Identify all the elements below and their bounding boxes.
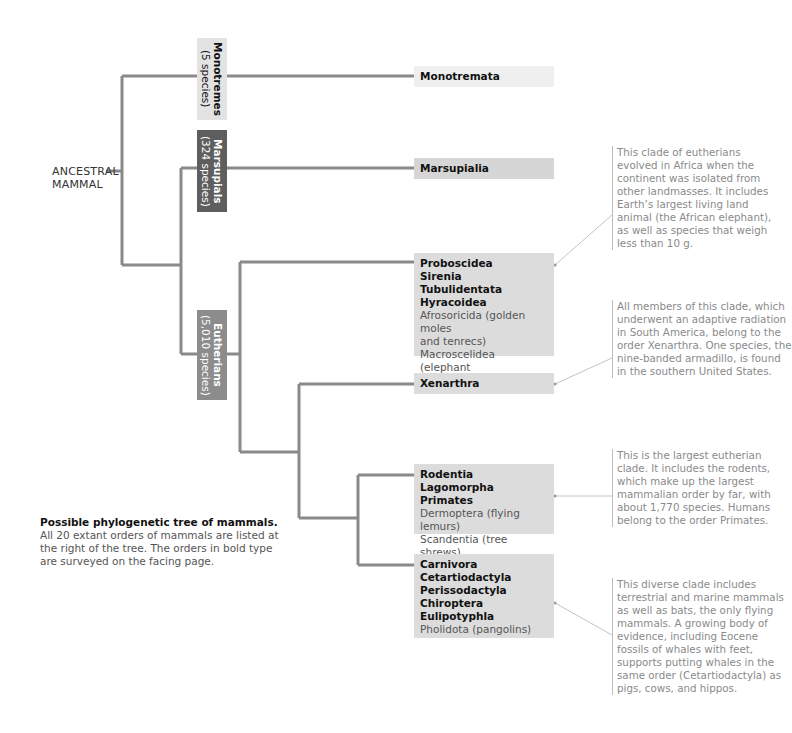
note-xenarthra: All members of this clade, which underwe… [612,300,792,378]
group-marsupials: Marsupials (324 species) [197,130,227,212]
group-monotremes-name: Monotremes [212,42,224,116]
group-monotremes: Monotremes (5 species) [197,38,227,120]
order-box-marsupialia: Marsupialia [414,158,554,179]
figure-caption: Possible phylogenetic tree of mammals. A… [40,516,290,568]
note-afrotheria: This clade of eutherians evolved in Afri… [612,146,772,250]
order-box-xenarthra: Xenarthra [414,373,554,394]
group-eutherians-name: Eutherians [212,315,224,396]
group-marsupials-name: Marsupials [212,136,224,207]
note-laurasiatheria: This diverse clade includes terrestrial … [612,578,792,695]
note-euarchontoglires: This is the largest eutherian clade. It … [612,449,772,527]
leader-xenarthra [555,358,612,384]
order-box-euarchontoglires: Rodentia Lagomorpha Primates Dermoptera … [414,464,554,534]
group-monotremes-count: (5 species) [200,42,212,116]
leader-afrotheria [555,215,612,265]
group-marsupials-count: (324 species) [200,136,212,207]
group-eutherians-count: (5,010 species) [200,315,212,396]
leader-laurasiatheria [555,603,612,635]
caption-body: All 20 extant orders of mammals are list… [40,529,279,567]
group-eutherians: Eutherians (5,010 species) [197,310,227,400]
root-label: ANCESTRAL MAMMAL [52,165,119,191]
caption-title: Possible phylogenetic tree of mammals. [40,516,290,529]
order-box-afrotheria: Proboscidea Sirenia Tubulidentata Hyraco… [414,253,554,356]
order-box-monotremata: Monotremata [414,66,554,87]
order-box-laurasiatheria: Carnivora Cetartiodactyla Perissodactyla… [414,554,554,638]
